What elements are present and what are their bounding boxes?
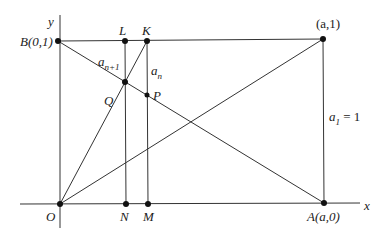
point-Q: [122, 79, 128, 85]
geometry-figure: y x B(0,1) L K Q P (a,1) O N M A(a,0) an…: [0, 0, 389, 236]
point-M: [145, 201, 151, 207]
label-N: N: [119, 209, 130, 224]
label-C: (a,1): [316, 16, 340, 31]
x-axis: [20, 203, 360, 204]
label-B: B(0,1): [20, 34, 53, 49]
label-M: M: [142, 209, 155, 224]
right-edge-CA: [323, 39, 324, 203]
point-A: [321, 200, 327, 206]
vertical-KM: [147, 41, 148, 204]
vertical-LN: [125, 41, 126, 204]
point-P: [145, 93, 150, 98]
point-L: [122, 38, 128, 44]
label-O: O: [46, 209, 56, 224]
point-N: [123, 201, 129, 207]
label-L: L: [118, 23, 126, 38]
label-P: P: [152, 88, 161, 103]
label-Q: Q: [104, 93, 114, 108]
label-a-1: a1 = 1: [329, 109, 360, 127]
label-a-n-plus-1: an+1: [98, 54, 120, 72]
label-K: K: [141, 23, 152, 38]
y-axis-label: y: [46, 14, 54, 29]
top-edge-BC: [58, 39, 323, 41]
x-axis-label: x: [363, 198, 370, 213]
point-K: [144, 38, 150, 44]
label-A: A(a,0): [306, 209, 340, 224]
point-B: [55, 38, 61, 44]
point-O: [57, 201, 63, 207]
label-a-n: an: [151, 63, 163, 81]
diagram: y x B(0,1) L K Q P (a,1) O N M A(a,0) an…: [0, 0, 389, 236]
point-C: [320, 36, 326, 42]
